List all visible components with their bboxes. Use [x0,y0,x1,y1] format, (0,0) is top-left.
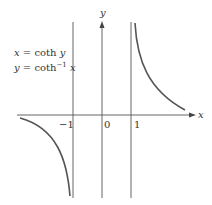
tick-label-neg1: −1 [59,119,74,130]
eq2-sup: −1 [56,61,66,69]
eq1-rhs: = coth [20,47,60,58]
x-axis-label: x [198,109,204,120]
eq2-var: x [67,62,76,73]
equation-line-1: x = coth y [14,47,66,58]
y-axis-arrow-icon [100,21,105,28]
curve-right-branch [135,23,185,110]
x-axis-arrow-icon [189,113,196,118]
tick-label-1: 1 [134,119,140,130]
y-axis-label: y [99,7,106,18]
equation-line-2: y = coth−1 x [13,61,76,73]
eq2-rhs: = coth [20,62,57,73]
tick-label-0: 0 [104,119,110,130]
graph-canvas: y x −1 0 1 x = coth y y = coth−1 x [0,0,212,205]
eq1-var: y [59,47,66,58]
